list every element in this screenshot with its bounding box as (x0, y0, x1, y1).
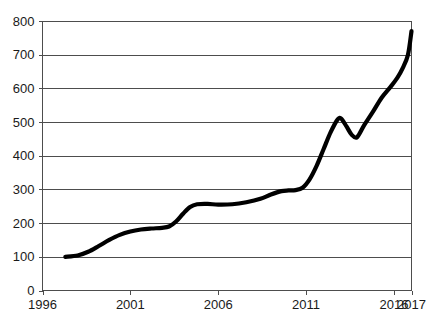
x-tick-label-2001: 2001 (116, 297, 145, 312)
y-tick-label-300: 300 (13, 182, 35, 197)
y-tick-label-100: 100 (13, 249, 35, 264)
y-tick-label-200: 200 (13, 216, 35, 231)
y-tick-label-500: 500 (13, 115, 35, 130)
y-tick-label-600: 600 (13, 81, 35, 96)
y-axis-labels: 0100200300400500600700800 (13, 14, 35, 299)
y-tick-label-700: 700 (13, 47, 35, 62)
x-tick-label-2006: 2006 (204, 297, 233, 312)
x-tick-label-2011: 2011 (292, 297, 320, 312)
y-tick-label-400: 400 (13, 148, 35, 163)
chart-background (0, 0, 439, 331)
chart-container: 0100200300400500600700800 19962001200620… (0, 0, 439, 331)
x-tick-label-2017: 2017 (397, 297, 426, 312)
line-chart: 0100200300400500600700800 19962001200620… (0, 0, 439, 331)
x-tick-label-1996: 1996 (28, 297, 57, 312)
y-tick-label-800: 800 (13, 14, 35, 29)
